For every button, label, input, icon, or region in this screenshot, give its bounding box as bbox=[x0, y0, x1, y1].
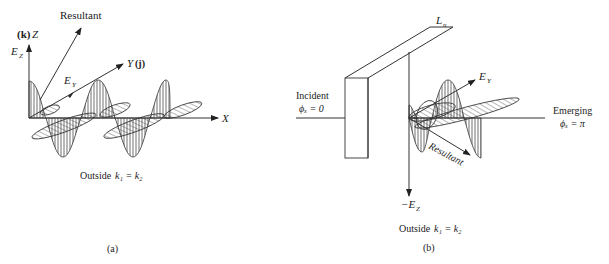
panel-a: Resultant (k) Z E Z E Y Y (j) X Outside … bbox=[10, 9, 230, 255]
panel-a-subtitle-prefix: Outside bbox=[80, 170, 112, 181]
emerging-phase-label: ϕₓ = π bbox=[560, 118, 586, 129]
ey-label: E bbox=[63, 74, 71, 86]
slab-label: L bbox=[435, 14, 442, 26]
z-axis-label: Z bbox=[32, 28, 39, 40]
slab-sub-label: n bbox=[443, 21, 447, 29]
panel-b: L n Incident ϕₓ = 0 Emerging ϕₓ = π E Y … bbox=[296, 14, 592, 254]
ey-sub-label: Y bbox=[72, 81, 77, 89]
panel-b-subtitle-prefix: Outside bbox=[399, 223, 431, 234]
wave-polarization-diagram: Resultant (k) Z E Z E Y Y (j) X Outside … bbox=[0, 0, 609, 264]
neg-ez-sub-label: Z bbox=[416, 205, 420, 213]
resultant-arrow bbox=[40, 28, 81, 100]
ey-label-b: E bbox=[478, 70, 486, 82]
incident-phase-label: ϕₓ = 0 bbox=[299, 103, 324, 114]
y-axis-label: Y bbox=[127, 57, 135, 69]
ez-sub-label: Z bbox=[19, 52, 23, 60]
y-axis-unit-label: (j) bbox=[135, 58, 145, 70]
emerging-label: Emerging bbox=[553, 105, 592, 116]
panel-a-subtitle-eq: k₁ = k₂ bbox=[115, 170, 143, 181]
incident-label: Incident bbox=[296, 90, 329, 101]
ez-label: E bbox=[10, 45, 18, 57]
panel-b-caption: (b) bbox=[423, 242, 435, 254]
resultant-label: Resultant bbox=[60, 9, 102, 21]
ey-sub-label-b: Y bbox=[487, 77, 492, 85]
z-axis-unit-label: (k) bbox=[17, 28, 31, 41]
panel-b-subtitle-eq: k₁ = k₂ bbox=[434, 223, 462, 234]
slab bbox=[345, 27, 453, 158]
neg-ez-label: −E bbox=[401, 198, 415, 210]
resultant-label-b: Resultant bbox=[426, 140, 466, 168]
panel-a-caption: (a) bbox=[107, 243, 118, 255]
x-axis-label: X bbox=[221, 112, 230, 124]
